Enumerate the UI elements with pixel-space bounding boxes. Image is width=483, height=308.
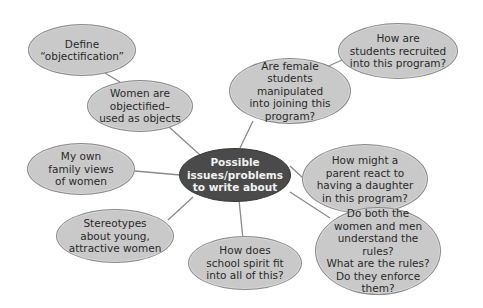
node-label: Women are objectified– used as objects: [99, 87, 181, 125]
link-stereotypes-center: [168, 197, 193, 220]
node-label: How does school spirit fit into all of t…: [206, 244, 283, 282]
node-label: Are female students manipulated into joi…: [236, 60, 344, 123]
link-spirit-center: [239, 200, 243, 239]
center-topic: Possible issues/problems to write about: [179, 148, 291, 202]
node-label: Stereotypes about young, attractive wome…: [69, 217, 162, 255]
node-label: My own family views of women: [48, 150, 113, 188]
node-label: How might a parent react to having a dau…: [317, 154, 414, 204]
node-label: How are students recruited into this pro…: [350, 32, 446, 70]
node-students-manipulated: Are female students manipulated into joi…: [229, 58, 351, 124]
node-school-spirit: How does school spirit fit into all of t…: [188, 236, 302, 290]
center-label: Possible issues/problems to write about: [187, 156, 283, 194]
link-objectified-center: [168, 126, 200, 155]
node-define-objectification: Define “objectification”: [28, 24, 136, 76]
node-label: Do both the women and men understand the…: [322, 207, 434, 295]
node-label: Define “objectification”: [40, 38, 124, 63]
node-family-views: My own family views of women: [27, 143, 135, 195]
node-women-objectified: Women are objectified– used as objects: [87, 80, 193, 132]
node-students-recruited: How are students recruited into this pro…: [338, 23, 458, 79]
node-parent-reaction: How might a parent react to having a dau…: [302, 144, 428, 214]
link-define-objectified: [105, 73, 120, 82]
node-rules: Do both the women and men understand the…: [315, 207, 441, 295]
mind-map: Define “objectification” Women are objec…: [0, 0, 483, 308]
link-parent-center: [290, 166, 303, 178]
link-family-center: [135, 171, 180, 175]
link-manipulated-center: [240, 121, 253, 148]
node-stereotypes: Stereotypes about young, attractive wome…: [56, 209, 174, 263]
